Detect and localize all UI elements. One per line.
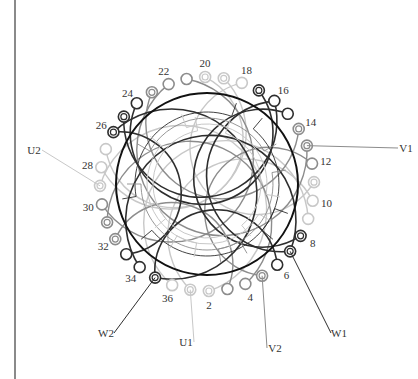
terminal-lead-w1: [290, 251, 331, 333]
slot-label-26: 26: [96, 119, 108, 131]
slot-22: [163, 79, 174, 90]
slot-12: [307, 158, 318, 169]
slot-label-6: 6: [284, 269, 290, 281]
slot-36: [167, 280, 178, 291]
terminal-lead-v1: [307, 146, 398, 148]
stator-winding-diagram: 24681012141618202224262830323436 U1U2V1V…: [0, 0, 418, 379]
slot-2: [203, 285, 214, 296]
terminal-label-w1: W1: [331, 327, 347, 339]
slot-label-12: 12: [320, 155, 331, 167]
terminal-lead-v2: [262, 276, 267, 348]
phase-dark-windings: [113, 90, 300, 279]
slot-28: [96, 162, 107, 173]
slot-label-14: 14: [305, 116, 317, 128]
slot-label-28: 28: [82, 159, 94, 171]
slot-6: [272, 259, 283, 270]
coil-end-arc: [107, 141, 272, 284]
slot-31: [102, 217, 113, 228]
slot-23: [146, 87, 157, 98]
terminal-label-u2: U2: [27, 144, 40, 156]
slot-label-32: 32: [98, 240, 109, 252]
slot-14: [293, 123, 304, 134]
terminal-leads: U1U2V1V2W1W2: [27, 142, 412, 354]
slot-20: [200, 72, 211, 83]
slot-26: [108, 127, 119, 138]
slot-3: [222, 284, 233, 295]
slot-24: [131, 98, 142, 109]
slot-10: [307, 195, 318, 206]
slot-label-18: 18: [241, 64, 253, 76]
coil-end-arc: [144, 141, 308, 286]
terminal-label-v2: V2: [268, 342, 281, 354]
slot-15: [282, 108, 293, 119]
coil-end-arc: [168, 159, 313, 290]
slot-label-8: 8: [310, 237, 316, 249]
terminal-lead-u1: [190, 290, 194, 342]
slot-label-30: 30: [83, 201, 95, 213]
slot-16: [269, 95, 280, 106]
slot-label-10: 10: [321, 197, 333, 209]
slot-label-20: 20: [199, 57, 211, 69]
slot-25: [118, 111, 129, 122]
slot-9: [303, 213, 314, 224]
terminal-label-v1: V1: [399, 142, 412, 154]
slot-label-2: 2: [206, 299, 212, 311]
slot-17: [253, 85, 264, 96]
terminal-lead-w2: [114, 278, 155, 333]
terminal-label-u1: U1: [179, 336, 192, 348]
slot-34: [134, 262, 145, 273]
slot-27: [100, 144, 111, 155]
inner-connection-arc: [122, 103, 236, 199]
slot-19: [218, 73, 229, 84]
slot-label-16: 16: [278, 84, 290, 96]
slot-18: [236, 77, 247, 88]
slot-33: [121, 249, 132, 260]
slot-32: [110, 234, 121, 245]
coil-end-arc: [137, 84, 307, 236]
slot-label-34: 34: [125, 272, 137, 284]
slot-30: [96, 199, 107, 210]
slot-11: [308, 177, 319, 188]
slot-label-22: 22: [158, 65, 169, 77]
slot-label-4: 4: [248, 291, 254, 303]
slot-8: [295, 230, 306, 241]
slot-label-24: 24: [122, 87, 134, 99]
slot-4: [240, 278, 251, 289]
terminal-label-w2: W2: [98, 327, 114, 339]
slot-label-36: 36: [162, 292, 174, 304]
slot-21: [181, 73, 192, 84]
